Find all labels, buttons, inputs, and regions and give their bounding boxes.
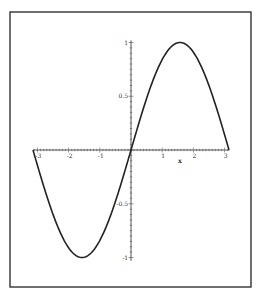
y-tick-label: -0.5 — [116, 200, 128, 207]
y-tick-label: 1 — [124, 39, 128, 46]
y-tick-label: 0.5 — [118, 92, 128, 99]
x-tick-label: -1 — [98, 152, 104, 159]
sine-plot: -3-2-112310.5-0.5-1 x — [0, 0, 261, 298]
y-tick-label: -1 — [122, 254, 128, 261]
x-axis-label: x — [178, 157, 182, 165]
x-tick-label: -3 — [35, 152, 41, 159]
x-tick-label: 1 — [161, 152, 165, 159]
x-tick-label: 3 — [224, 152, 228, 159]
x-tick-label: 2 — [192, 152, 196, 159]
x-tick-label: -2 — [67, 152, 73, 159]
